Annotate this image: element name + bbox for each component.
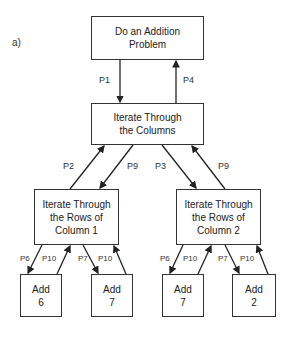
node-root: Do an Addition Problem [91,16,204,60]
edge-label-p10-d: P10 [240,254,254,263]
node-rows-column-2: Iterate Through the Rows of Column 2 [176,189,261,245]
edge-label-p6-col1: P6 [20,254,30,263]
edge-label-p10-b: P10 [98,254,112,263]
edge-label-p10-a: P10 [42,254,56,263]
edge-label-p7-col1: P7 [78,254,88,263]
node-add-7-col1: Add 7 [91,274,133,317]
node-columns: Iterate Through the Columns [91,103,204,145]
edge-label-p7-col2: P7 [218,254,228,263]
edge-label-p10-c: P10 [183,254,197,263]
edge-label-p3: P3 [155,161,166,171]
edge-label-p9-right: P9 [218,161,229,171]
edge-label-p4: P4 [183,75,194,85]
edge-label-p6-col2: P6 [160,254,170,263]
node-rows-column-1: Iterate Through the Rows of Column 1 [34,189,119,245]
figure-label: a) [12,37,21,48]
node-add-2: Add 2 [232,274,276,317]
node-add-7-col2: Add 7 [162,274,204,317]
edge-label-p2: P2 [63,161,74,171]
edge-label-p9-left: P9 [127,161,138,171]
node-add-6: Add 6 [20,274,62,317]
edge-label-p1: P1 [99,75,110,85]
